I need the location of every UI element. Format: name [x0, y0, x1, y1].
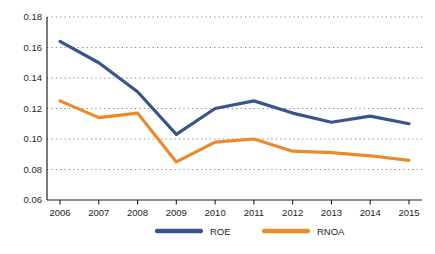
x-tick-label-2014: 2014	[360, 207, 381, 218]
chart-canvas: 0.060.080.100.120.140.160.18 20062007200…	[0, 0, 435, 254]
x-tick-label-2009: 2009	[166, 207, 187, 218]
y-tick-label: 0.14	[24, 72, 43, 83]
x-axis-ticks	[60, 200, 409, 205]
axis-lines	[47, 17, 422, 200]
legend-label-roe: ROE	[210, 226, 231, 237]
x-tick-label-2008: 2008	[127, 207, 148, 218]
x-tick-label-2012: 2012	[282, 207, 303, 218]
line-chart: 0.060.080.100.120.140.160.18 20062007200…	[0, 0, 435, 254]
y-tick-label: 0.12	[24, 103, 43, 114]
data-series	[60, 41, 409, 161]
x-tick-label-2007: 2007	[88, 207, 109, 218]
y-tick-label: 0.08	[24, 164, 43, 175]
y-tick-label: 0.06	[24, 194, 43, 205]
y-tick-label: 0.10	[24, 133, 43, 144]
legend-swatch-rnoa	[262, 229, 310, 234]
x-tick-label-2015: 2015	[398, 207, 419, 218]
chart-legend: ROERNOA	[155, 226, 345, 237]
x-tick-label-2010: 2010	[205, 207, 226, 218]
series-line-rnoa	[60, 101, 409, 162]
x-axis-tick-labels: 2006200720082009201020112012201320142015	[49, 207, 419, 218]
series-line-roe	[60, 41, 409, 134]
gridlines	[47, 17, 422, 170]
y-tick-label: 0.16	[24, 42, 43, 53]
y-axis-tick-labels: 0.060.080.100.120.140.160.18	[24, 11, 43, 205]
x-tick-label-2011: 2011	[244, 207, 264, 218]
y-tick-label: 0.18	[24, 11, 43, 22]
legend-label-rnoa: RNOA	[317, 226, 345, 237]
x-tick-label-2006: 2006	[49, 207, 70, 218]
legend-swatch-roe	[155, 229, 203, 234]
x-tick-label-2013: 2013	[321, 207, 342, 218]
